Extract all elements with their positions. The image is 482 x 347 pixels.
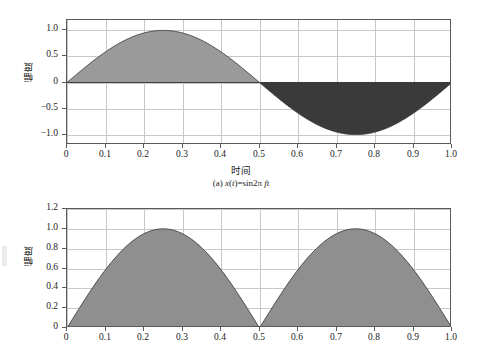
y-tick-label: 0.5: [30, 50, 58, 60]
y-tick-label: 1.0: [30, 24, 58, 34]
y-tick-mark: [62, 29, 66, 30]
area-fill-negative: [260, 83, 452, 135]
y-tick-mark: [62, 108, 66, 109]
x-tick-label: 0.2: [126, 150, 160, 160]
area-fill-positive: [67, 229, 451, 327]
x-tick-label: 0.5: [242, 333, 276, 343]
x-tick-mark: [413, 327, 414, 331]
x-tick-mark: [259, 327, 260, 331]
caption-var-t2: t: [267, 178, 270, 188]
x-tick-mark: [374, 144, 375, 148]
x-tick-label: 0.7: [319, 150, 353, 160]
x-tick-label: 0.6: [280, 333, 314, 343]
caption-eq-sin: =sin2: [237, 178, 257, 188]
y-tick-mark: [62, 307, 66, 308]
y-tick-label: −0.5: [30, 103, 58, 113]
chart-panel-sine: 幅度 −1.0−0.500.51.0 00.10.20.30.40.50.60.…: [0, 0, 482, 196]
chart-panel-rectified-sine: 幅度 00.20.40.60.81.01.2 00.10.20.30.40.50…: [0, 196, 482, 347]
x-tick-label: 0: [49, 150, 83, 160]
x-tick-label: 1.0: [434, 150, 468, 160]
x-tick-mark: [105, 327, 106, 331]
caption-prefix: (a): [213, 178, 225, 188]
x-tick-label: 0.2: [126, 333, 160, 343]
figure-container: 幅度 −1.0−0.500.51.0 00.10.20.30.40.50.60.…: [0, 0, 482, 347]
x-tick-mark: [451, 327, 452, 331]
y-tick-label: 0.6: [30, 263, 58, 273]
y-tick-label: 0.8: [30, 243, 58, 253]
x-tick-label: 0.1: [88, 333, 122, 343]
x-tick-label: 0.4: [203, 333, 237, 343]
x-tick-mark: [66, 327, 67, 331]
y-tick-mark: [62, 134, 66, 135]
x-tick-label: 0.8: [357, 150, 391, 160]
x-tick-mark: [297, 327, 298, 331]
x-tick-mark: [374, 327, 375, 331]
x-tick-mark: [297, 144, 298, 148]
x-tick-mark: [66, 144, 67, 148]
x-tick-mark: [143, 144, 144, 148]
y-tick-label: 0.4: [30, 282, 58, 292]
chart-series-rectified-sine-signal: [67, 209, 451, 327]
x-tick-mark: [220, 144, 221, 148]
x-tick-mark: [451, 144, 452, 148]
chart-b-plot-area: [66, 208, 451, 327]
y-tick-mark: [62, 268, 66, 269]
x-tick-label: 0.8: [357, 333, 391, 343]
x-tick-label: 0.3: [165, 333, 199, 343]
x-tick-label: 0.1: [88, 150, 122, 160]
y-tick-mark: [62, 228, 66, 229]
y-tick-label: −1.0: [30, 129, 58, 139]
area-fill-positive: [67, 30, 260, 82]
y-tick-mark: [62, 82, 66, 83]
chart-a-xlabel: 时间: [0, 163, 482, 177]
x-tick-mark: [336, 327, 337, 331]
y-tick-label: 1.2: [30, 203, 58, 213]
x-tick-mark: [220, 327, 221, 331]
y-tick-label: 0.2: [30, 302, 58, 312]
y-tick-label: 0: [30, 322, 58, 332]
y-tick-mark: [62, 287, 66, 288]
x-tick-label: 1.0: [434, 333, 468, 343]
x-tick-mark: [259, 144, 260, 148]
y-tick-mark: [62, 55, 66, 56]
x-tick-mark: [413, 144, 414, 148]
y-tick-label: 1.0: [30, 223, 58, 233]
chart-series-sine-signal: [67, 20, 451, 144]
figure-caption-a: (a) x(t)=sin2π ft: [0, 178, 482, 188]
x-tick-label: 0.3: [165, 150, 199, 160]
x-tick-label: 0.7: [319, 333, 353, 343]
y-tick-mark: [62, 248, 66, 249]
x-tick-label: 0.5: [242, 150, 276, 160]
x-tick-mark: [143, 327, 144, 331]
y-tick-label: 0: [30, 77, 58, 87]
x-tick-label: 0.4: [203, 150, 237, 160]
x-tick-label: 0.9: [396, 150, 430, 160]
x-tick-mark: [182, 144, 183, 148]
x-tick-mark: [105, 144, 106, 148]
chart-a-plot-area: [66, 19, 451, 144]
y-tick-mark: [62, 208, 66, 209]
x-tick-mark: [336, 144, 337, 148]
x-tick-label: 0.9: [396, 333, 430, 343]
x-tick-label: 0.6: [280, 150, 314, 160]
x-tick-label: 0: [49, 333, 83, 343]
x-tick-mark: [182, 327, 183, 331]
